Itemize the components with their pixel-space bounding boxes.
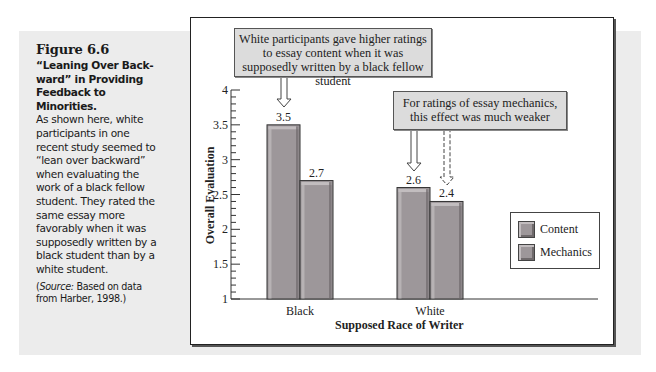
x-axis-title: Supposed Race of Writer — [335, 318, 464, 333]
legend-label: Content — [540, 222, 578, 237]
bar-black-content — [267, 125, 300, 299]
bar-bevel-left — [302, 182, 305, 298]
arrow-mechanics-white — [440, 131, 454, 185]
bar-bevel-right — [329, 182, 332, 298]
y-tick-label: 2 — [222, 222, 228, 236]
y-tick-label: 4 — [222, 83, 228, 97]
y-axis-title: Overall Evaluation — [203, 126, 218, 266]
chart-legend: Content Mechanics — [510, 212, 600, 269]
legend-item-mechanics: Mechanics — [518, 244, 592, 261]
bar-bevel-right — [426, 189, 429, 298]
x-category-label: White — [415, 304, 444, 318]
bar-bevel-top — [302, 182, 332, 185]
bar-bevel-top — [399, 189, 429, 192]
bar-value-label: 3.5 — [276, 110, 291, 124]
bar-white-mechanics — [430, 201, 463, 299]
bar-white-content — [397, 188, 430, 299]
callout-mechanics: For ratings of essay mechanics, this eff… — [393, 91, 567, 130]
legend-swatch-mechanics — [518, 244, 535, 261]
callout-content: White participants gave higher ratings t… — [234, 28, 432, 77]
y-tick-label: 1 — [222, 292, 228, 306]
bar-bevel-right — [459, 203, 462, 299]
bar-black-mechanics — [300, 181, 333, 299]
bar-bevel-left — [399, 189, 402, 298]
bar-value-label: 2.7 — [309, 166, 324, 180]
x-category-label: Black — [286, 304, 314, 318]
bar-bevel-right — [296, 126, 299, 298]
bar-bevel-left — [432, 203, 435, 299]
bar-bevel-top — [432, 203, 462, 206]
bar-bevel-left — [269, 126, 272, 298]
bar-value-label: 2.6 — [406, 173, 421, 187]
legend-item-content: Content — [518, 221, 578, 238]
y-tick-label: 3 — [222, 153, 228, 167]
arrow-content-white — [407, 131, 421, 171]
bar-value-label: 2.4 — [439, 186, 454, 200]
arrow-content-black — [277, 78, 291, 107]
bar-bevel-top — [269, 126, 299, 129]
legend-label: Mechanics — [540, 245, 592, 260]
legend-swatch-content — [518, 221, 535, 238]
